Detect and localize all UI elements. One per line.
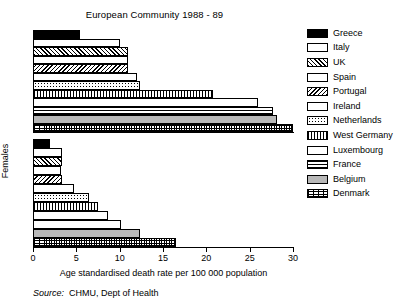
panel-label-females: Females — [0, 144, 10, 179]
x-tick — [293, 247, 294, 252]
bar-males-portugal — [33, 64, 128, 73]
x-tick-label: 0 — [30, 253, 35, 263]
legend-label: Belgium — [333, 175, 366, 184]
legend-item-luxembourg[interactable]: Luxembourg — [307, 143, 417, 158]
legend-swatch-fine-dots-icon — [307, 73, 328, 82]
bar-row — [33, 90, 293, 99]
bar-row — [33, 47, 293, 56]
legend-item-portugal[interactable]: Portugal — [307, 84, 417, 99]
legend-item-belgium[interactable]: Belgium — [307, 172, 417, 187]
bar-females-netherlands — [33, 193, 89, 202]
bar-row — [33, 211, 293, 220]
bar-row — [33, 30, 293, 39]
x-tick — [120, 247, 121, 252]
chart-figure: European Community 1988 - 89 Males Femal… — [0, 0, 419, 307]
x-tick — [33, 247, 34, 252]
legend-swatch-solid-gray-icon — [307, 175, 328, 184]
bar-row — [33, 139, 293, 148]
bar-males-netherlands — [33, 81, 140, 90]
source-note: Source: CHMU, Dept of Health — [33, 288, 159, 298]
source-text: CHMU, Dept of Health — [69, 288, 159, 298]
bar-row — [33, 202, 293, 211]
x-axis-title: Age standardised death rate per 100 000 … — [33, 268, 294, 278]
legend-item-denmark[interactable]: Denmark — [307, 187, 417, 202]
females-plot-area — [33, 139, 293, 247]
bar-row — [33, 73, 293, 82]
bar-row — [33, 166, 293, 175]
bar-females-west-germany — [33, 202, 98, 211]
bar-row — [33, 124, 293, 133]
bar-females-luxembourg — [33, 211, 108, 220]
bar-row — [33, 175, 293, 184]
legend-item-italy[interactable]: Italy — [307, 41, 417, 56]
legend-swatch-diagonal-hatch-icon — [307, 58, 328, 67]
bar-females-france — [33, 220, 121, 229]
bar-males-greece — [33, 30, 80, 39]
bar-row — [33, 56, 293, 65]
legend-swatch-fine-vertical-icon — [307, 146, 328, 155]
legend-label: Portugal — [333, 87, 367, 96]
males-plot-area — [33, 30, 293, 132]
legend-swatch-fine-grid-icon — [307, 102, 328, 111]
bar-females-portugal — [33, 175, 62, 184]
legend: GreeceItalyUKSpainPortugalIrelandNetherl… — [307, 26, 417, 201]
bar-row — [33, 184, 293, 193]
bar-row — [33, 229, 293, 238]
legend-label: Ireland — [333, 102, 361, 111]
legend-label: Greece — [333, 29, 363, 38]
bar-row — [33, 220, 293, 229]
bar-row — [33, 39, 293, 48]
legend-item-spain[interactable]: Spain — [307, 70, 417, 85]
bar-row — [33, 157, 293, 166]
legend-label: Netherlands — [333, 116, 382, 125]
source-prefix: Source: — [33, 288, 64, 298]
x-tick-label: 5 — [74, 253, 79, 263]
legend-swatch-horizontal-lines-icon — [307, 160, 328, 169]
bar-females-spain — [33, 166, 61, 175]
bar-females-denmark — [33, 238, 176, 247]
x-tick-label: 15 — [158, 253, 168, 263]
males-x-axis — [33, 132, 294, 133]
bar-row — [33, 115, 293, 124]
legend-item-greece[interactable]: Greece — [307, 26, 417, 41]
legend-swatch-coarse-dots-icon — [307, 116, 328, 125]
bar-females-ireland — [33, 184, 74, 193]
legend-item-france[interactable]: France — [307, 157, 417, 172]
bar-row — [33, 107, 293, 116]
legend-label: UK — [333, 58, 346, 67]
x-tick-label: 30 — [288, 253, 298, 263]
legend-item-uk[interactable]: UK — [307, 55, 417, 70]
bar-row — [33, 193, 293, 202]
legend-label: Italy — [333, 43, 350, 52]
legend-label: Luxembourg — [333, 146, 383, 155]
chart-title: European Community 1988 - 89 — [0, 9, 309, 20]
legend-label: France — [333, 160, 361, 169]
legend-label: West Germany — [333, 131, 393, 140]
bar-males-west-germany — [33, 90, 213, 99]
x-tick — [250, 247, 251, 252]
legend-item-ireland[interactable]: Ireland — [307, 99, 417, 114]
bar-males-italy — [33, 39, 120, 48]
bar-males-denmark — [33, 124, 293, 133]
legend-label: Denmark — [333, 189, 370, 198]
legend-item-netherlands[interactable]: Netherlands — [307, 114, 417, 129]
legend-item-west-germany[interactable]: West Germany — [307, 128, 417, 143]
bar-males-ireland — [33, 73, 137, 82]
legend-swatch-solid-black-icon — [307, 29, 328, 38]
bar-females-uk — [33, 157, 62, 166]
legend-swatch-back-diagonal-hatch-icon — [307, 87, 328, 96]
x-tick-label: 25 — [245, 253, 255, 263]
legend-swatch-white-icon — [307, 43, 328, 52]
bar-males-belgium — [33, 115, 277, 124]
bar-males-uk — [33, 47, 128, 56]
bar-row — [33, 98, 293, 107]
bar-row — [33, 148, 293, 157]
legend-swatch-vertical-lines-icon — [307, 131, 328, 140]
bar-row — [33, 238, 293, 247]
bar-females-italy — [33, 148, 62, 157]
bar-row — [33, 81, 293, 90]
bar-row — [33, 64, 293, 73]
legend-swatch-crosshatch-icon — [307, 189, 328, 198]
bar-males-france — [33, 107, 273, 116]
bar-males-luxembourg — [33, 98, 258, 107]
